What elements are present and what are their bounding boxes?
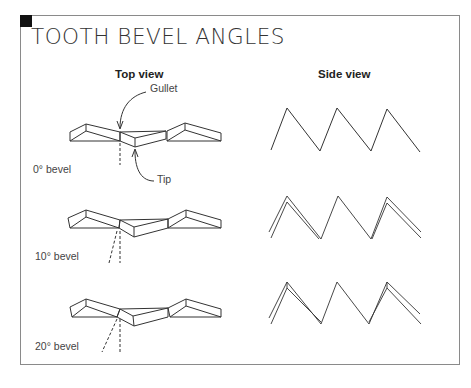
tip-arrow [132, 149, 154, 181]
diagram-drawing [0, 0, 471, 388]
gullet-arrow [117, 92, 146, 129]
top-view-20-bevel [70, 299, 221, 352]
side-view-0-bevel [271, 108, 420, 152]
side-view-20-bevel [269, 282, 421, 324]
side-view-10-bevel [269, 196, 421, 239]
top-view-10-bevel [68, 210, 221, 263]
top-view-0-bevel [70, 123, 221, 165]
